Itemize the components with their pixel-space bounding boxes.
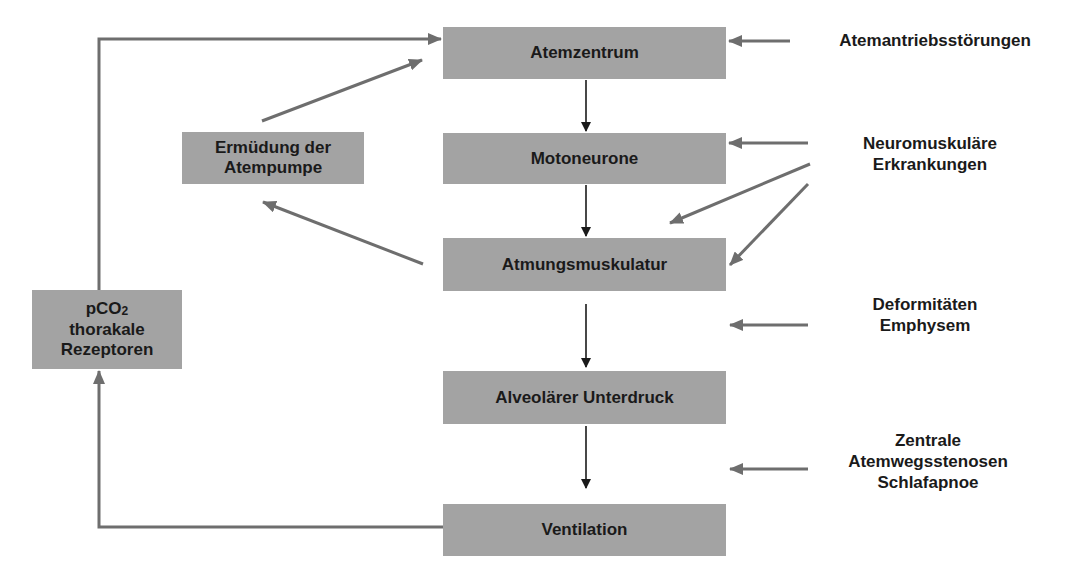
node-ermuedung-atempumpe: Ermüdung der Atempumpe [182,132,364,184]
node-ventilation: Ventilation [443,504,726,556]
node-label: Ventilation [542,520,628,540]
node-label-line1: pCO2 [86,299,129,320]
label-line: Emphysem [830,315,1020,336]
label-neuromuskulaere-erkrankungen: Neuromuskuläre Erkrankungen [830,133,1030,175]
node-pco2-rezeptoren: pCO2 thorakale Rezeptoren [32,290,182,369]
node-label: Alveolärer Unterdruck [495,388,674,408]
arrow-neuromuskulaer-to-muskulatur [730,184,808,265]
node-label-line1: Ermüdung der [215,138,331,158]
node-alveolaerer-unterdruck: Alveolärer Unterdruck [443,371,726,424]
label-deformitaeten-emphysem: Deformitäten Emphysem [830,294,1020,336]
pco2-subscript: 2 [122,304,129,318]
node-atmungsmuskulatur: Atmungsmuskulatur [443,238,726,291]
label-line: Neuromuskuläre [830,133,1030,154]
label-line: Schlafapnoe [818,472,1038,493]
label-line: Erkrankungen [830,154,1030,175]
arrow-ermuedung-to-atemzentrum [262,60,422,121]
arrow-muskulatur-to-ermuedung [263,202,423,264]
node-label-line2: Atempumpe [224,158,322,178]
label-line: Zentrale [818,430,1038,451]
node-label: Atmungsmuskulatur [502,255,667,275]
node-atemzentrum: Atemzentrum [443,27,726,79]
label-atemantriebsstoerungen: Atemantriebsstörungen [800,30,1070,51]
node-label-line2: thorakale [69,320,145,340]
label-line: Atemwegsstenosen [818,451,1038,472]
node-label-line3: Rezeptoren [61,340,154,360]
label-line: Atemantriebsstörungen [839,31,1031,50]
node-label: Motoneurone [531,149,639,169]
arrow-ventilation-to-rezeptoren [99,371,443,527]
node-label: Atemzentrum [530,43,639,63]
label-zentrale-atemwegsstenosen: Zentrale Atemwegsstenosen Schlafapnoe [818,430,1038,493]
node-motoneurone: Motoneurone [443,133,726,184]
pco2-text: pCO [86,299,122,318]
feedback-loop [99,39,443,527]
label-line: Deformitäten [830,294,1020,315]
